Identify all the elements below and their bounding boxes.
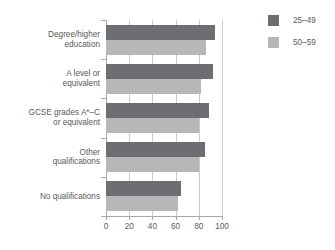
x-axis-tick-label: 100 bbox=[210, 222, 234, 231]
category-label-line: A level or bbox=[4, 69, 100, 79]
y-axis-tick bbox=[101, 20, 106, 21]
legend-label: 25–49 bbox=[293, 15, 316, 26]
y-axis-tick bbox=[101, 98, 106, 99]
category-labels: Degree/highereducationA level orequivale… bbox=[0, 0, 100, 250]
category-label-line: No qualifications bbox=[4, 192, 100, 202]
bar-chart: 020406080100 Degree/highereducationA lev… bbox=[0, 0, 335, 250]
bar bbox=[106, 103, 209, 118]
x-axis-tick bbox=[152, 216, 153, 220]
bar bbox=[106, 181, 181, 196]
bar bbox=[106, 196, 178, 211]
x-axis-tick-label: 40 bbox=[140, 222, 164, 231]
x-axis-tick bbox=[199, 216, 200, 220]
x-axis-tick bbox=[176, 216, 177, 220]
bar bbox=[106, 79, 201, 94]
y-axis-tick bbox=[101, 138, 106, 139]
category-label: No qualifications bbox=[4, 192, 100, 202]
legend-swatch-icon bbox=[268, 15, 279, 26]
y-axis-tick bbox=[101, 177, 106, 178]
gridline-100 bbox=[222, 20, 223, 216]
x-axis-tick bbox=[106, 216, 107, 220]
category-label: Degree/highereducation bbox=[4, 30, 100, 49]
category-label: A level orequivalent bbox=[4, 69, 100, 88]
bar bbox=[106, 64, 213, 79]
plot-area bbox=[106, 20, 222, 216]
bar bbox=[106, 157, 199, 172]
x-axis-tick-label: 60 bbox=[164, 222, 188, 231]
x-axis-tick-label: 80 bbox=[187, 222, 211, 231]
category-label-line: GCSE grades A*–C bbox=[4, 108, 100, 118]
bar bbox=[106, 40, 206, 55]
bar bbox=[106, 118, 199, 133]
category-label-line: Other bbox=[4, 148, 100, 158]
category-label-line: qualifications bbox=[4, 157, 100, 167]
category-label-line: or equivalent bbox=[4, 118, 100, 128]
y-axis-tick bbox=[101, 59, 106, 60]
bar bbox=[106, 142, 205, 157]
x-axis-tick bbox=[129, 216, 130, 220]
x-axis-tick-label: 20 bbox=[117, 222, 141, 231]
category-label-line: Degree/higher bbox=[4, 30, 100, 40]
x-axis-line bbox=[106, 216, 223, 217]
category-label: GCSE grades A*–Cor equivalent bbox=[4, 108, 100, 127]
legend-swatch-icon bbox=[268, 37, 279, 48]
category-label: Otherqualifications bbox=[4, 148, 100, 167]
category-label-line: education bbox=[4, 40, 100, 50]
bar bbox=[106, 25, 215, 40]
x-axis-tick bbox=[222, 216, 223, 220]
legend-label: 50–59 bbox=[293, 37, 316, 48]
category-label-line: equivalent bbox=[4, 79, 100, 89]
